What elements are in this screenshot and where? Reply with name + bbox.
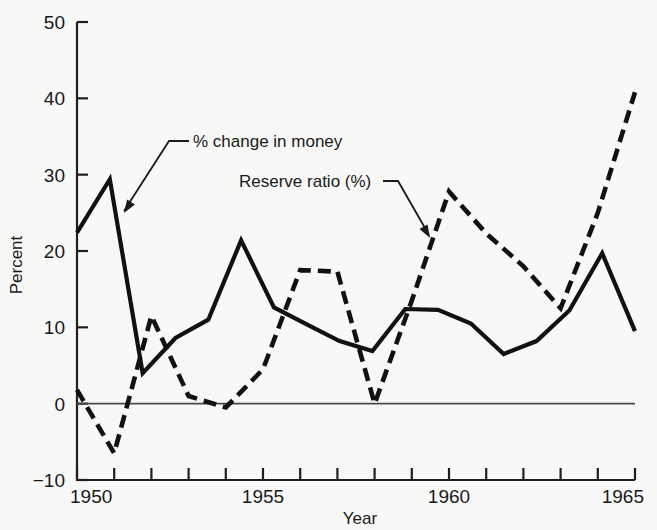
- series-line-1: [77, 179, 635, 373]
- y-tick-label-50: 50: [44, 12, 65, 33]
- y-tick-label-20: 20: [44, 241, 65, 262]
- y-tick-label-30: 30: [44, 165, 65, 186]
- annotation-label-1: % change in money: [193, 132, 343, 151]
- y-axis-title: Percent: [7, 235, 26, 294]
- y-tick-label-0: 0: [54, 394, 65, 415]
- x-tick-label-1960: 1960: [428, 486, 470, 507]
- x-tick-group: 1950195519601965: [70, 468, 644, 507]
- x-tick-label-1950: 1950: [70, 486, 112, 507]
- series-line-2: [77, 92, 635, 453]
- annotation-arrowhead-1: [124, 200, 135, 213]
- annotation-arrowhead-2: [420, 224, 430, 238]
- y-tick-group: −1001020304050: [33, 12, 88, 491]
- y-tick-label-40: 40: [44, 88, 65, 109]
- plot-axes: [77, 22, 635, 480]
- chart-figure: −1001020304050 1950195519601965 % change…: [0, 0, 657, 530]
- x-axis-title: Year: [343, 509, 378, 528]
- annotation-label-2: Reserve ratio (%): [239, 172, 371, 191]
- annotation-group: % change in moneyReserve ratio (%): [124, 132, 430, 238]
- y-tick-label--10: −10: [33, 470, 65, 491]
- axis-group: [77, 22, 635, 480]
- x-tick-label-1955: 1955: [242, 486, 284, 507]
- annotation-leader-2: [383, 181, 429, 235]
- chart-canvas: −1001020304050 1950195519601965 % change…: [0, 0, 657, 530]
- y-tick-label-10: 10: [44, 317, 65, 338]
- x-tick-label-1965: 1965: [602, 486, 644, 507]
- series-group: [77, 92, 635, 453]
- annotation-leader-1: [124, 141, 189, 211]
